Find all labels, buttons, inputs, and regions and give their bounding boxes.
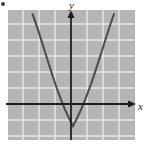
parabola-figure: y x xyxy=(0,0,148,144)
x-axis-label: x xyxy=(138,101,143,112)
y-axis-arrow-icon xyxy=(68,10,75,18)
y-axis-label: y xyxy=(69,0,74,11)
x-axis-arrow-icon xyxy=(128,101,136,108)
axes xyxy=(0,0,148,144)
